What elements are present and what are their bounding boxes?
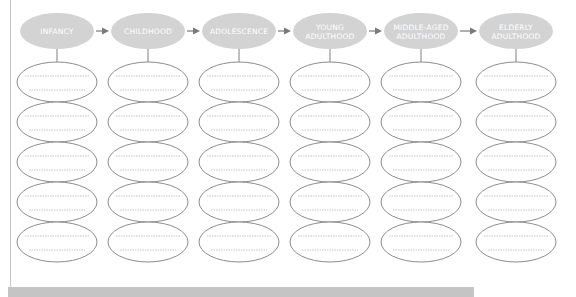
blank-answer-ellipse[interactable] bbox=[199, 62, 279, 102]
stage-label: INFANCY bbox=[40, 27, 73, 36]
right-arrow-icon bbox=[187, 28, 200, 35]
stage-column-young-adulthood: YOUNGADULTHOOD bbox=[290, 13, 370, 262]
blank-answer-ellipse[interactable] bbox=[108, 142, 188, 182]
life-stages-diagram: INFANCYCHILDHOODADOLESCENCEYOUNGADULTHOO… bbox=[0, 0, 576, 297]
blank-answer-ellipse[interactable] bbox=[17, 222, 97, 262]
blank-answer-ellipse[interactable] bbox=[476, 62, 556, 102]
blank-answer-ellipse[interactable] bbox=[108, 102, 188, 142]
stage-column-middle-aged-adulthood: MIDDLE-AGEDADULTHOOD bbox=[381, 13, 461, 262]
blank-answer-ellipse[interactable] bbox=[476, 222, 556, 262]
blank-answer-ellipse[interactable] bbox=[290, 102, 370, 142]
stage-label: ADOLESCENCE bbox=[210, 27, 268, 36]
stage-label: ADULTHOOD bbox=[491, 32, 540, 41]
blank-answer-ellipse[interactable] bbox=[17, 62, 97, 102]
blank-answer-ellipse[interactable] bbox=[108, 182, 188, 222]
stage-column-adolescence: ADOLESCENCE bbox=[199, 13, 279, 262]
blank-answer-ellipse[interactable] bbox=[381, 62, 461, 102]
blank-answer-ellipse[interactable] bbox=[17, 102, 97, 142]
blank-answer-ellipse[interactable] bbox=[476, 142, 556, 182]
blank-answer-ellipse[interactable] bbox=[199, 222, 279, 262]
blank-answer-ellipse[interactable] bbox=[476, 182, 556, 222]
blank-answer-ellipse[interactable] bbox=[381, 102, 461, 142]
blank-answer-ellipse[interactable] bbox=[476, 102, 556, 142]
right-arrow-icon bbox=[460, 28, 477, 35]
stage-column-infancy: INFANCY bbox=[17, 13, 97, 262]
right-arrow-icon bbox=[369, 28, 382, 35]
blank-answer-ellipse[interactable] bbox=[290, 142, 370, 182]
blank-answer-ellipse[interactable] bbox=[199, 182, 279, 222]
blank-answer-ellipse[interactable] bbox=[108, 222, 188, 262]
stage-label: ADULTHOOD bbox=[396, 32, 445, 41]
stage-label: ADULTHOOD bbox=[305, 32, 354, 41]
blank-answer-ellipse[interactable] bbox=[290, 182, 370, 222]
stage-label: CHILDHOOD bbox=[124, 27, 172, 36]
blank-answer-ellipse[interactable] bbox=[290, 62, 370, 102]
blank-answer-ellipse[interactable] bbox=[290, 222, 370, 262]
stage-column-childhood: CHILDHOOD bbox=[108, 13, 188, 262]
stage-column-elderly-adulthood: ELDERLYADULTHOOD bbox=[476, 13, 556, 262]
right-arrow-icon bbox=[96, 28, 109, 35]
stage-label: ELDERLY bbox=[499, 23, 533, 32]
stage-label: MIDDLE-AGED bbox=[393, 23, 448, 32]
right-arrow-icon bbox=[278, 28, 291, 35]
blank-answer-ellipse[interactable] bbox=[381, 182, 461, 222]
blank-answer-ellipse[interactable] bbox=[199, 102, 279, 142]
stage-label: YOUNG bbox=[315, 23, 344, 32]
blank-answer-ellipse[interactable] bbox=[17, 142, 97, 182]
blank-answer-ellipse[interactable] bbox=[199, 142, 279, 182]
blank-answer-ellipse[interactable] bbox=[17, 182, 97, 222]
blank-answer-ellipse[interactable] bbox=[381, 142, 461, 182]
blank-answer-ellipse[interactable] bbox=[108, 62, 188, 102]
blank-answer-ellipse[interactable] bbox=[381, 222, 461, 262]
